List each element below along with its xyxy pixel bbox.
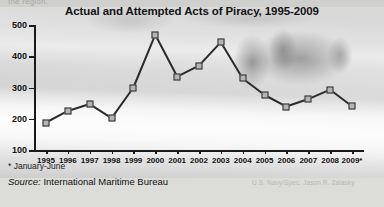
data-point-2007 bbox=[305, 96, 312, 103]
x-tick-label-2001: 2001 bbox=[168, 156, 186, 165]
data-point-2003 bbox=[217, 39, 224, 46]
x-tick-label-1999: 1999 bbox=[125, 156, 143, 165]
y-tick-label-200: 200 bbox=[12, 114, 27, 124]
data-point-2005 bbox=[261, 92, 268, 99]
chart-title: Actual and Attempted Acts of Piracy, 199… bbox=[0, 5, 384, 17]
x-tick-label-2000: 2000 bbox=[146, 156, 164, 165]
photo-credit: U.S. Navy/Spec. Jason R. Zalasky bbox=[252, 179, 355, 186]
source-label: Source: bbox=[8, 176, 41, 187]
data-point-2002 bbox=[196, 62, 203, 69]
x-tick-label-2002: 2002 bbox=[190, 156, 208, 165]
x-tick-label-1997: 1997 bbox=[81, 156, 99, 165]
data-point-1999 bbox=[130, 84, 137, 91]
data-point-1998 bbox=[108, 115, 115, 122]
x-tick-label-2007: 2007 bbox=[299, 156, 317, 165]
data-point-1995 bbox=[43, 119, 50, 126]
footnote-january-june: * January-June bbox=[8, 161, 65, 171]
x-tick-label-2006: 2006 bbox=[278, 156, 296, 165]
data-point-2009 bbox=[349, 103, 356, 110]
x-tick-label-1998: 1998 bbox=[103, 156, 121, 165]
data-point-1996 bbox=[64, 107, 71, 114]
x-tick-label-2003: 2003 bbox=[212, 156, 230, 165]
data-point-2004 bbox=[239, 75, 246, 82]
source-value: International Maritime Bureau bbox=[43, 176, 168, 187]
y-tick-label-500: 500 bbox=[12, 20, 27, 30]
source-line: Source: International Maritime Bureau bbox=[8, 176, 168, 187]
data-point-1997 bbox=[86, 101, 93, 108]
piracy-chart-figure: the region. Actual and Attempted Acts of… bbox=[0, 0, 384, 207]
y-tick-label-100: 100 bbox=[12, 145, 27, 155]
data-point-2000 bbox=[152, 31, 159, 38]
data-point-2006 bbox=[283, 103, 290, 110]
x-tick-label-2009: 2009* bbox=[342, 156, 363, 165]
x-tick-label-2005: 2005 bbox=[256, 156, 274, 165]
y-tick-label-400: 400 bbox=[12, 51, 27, 61]
x-tick-label-2004: 2004 bbox=[234, 156, 252, 165]
data-point-2001 bbox=[174, 73, 181, 80]
data-point-2008 bbox=[327, 86, 334, 93]
x-tick-label-2008: 2008 bbox=[321, 156, 339, 165]
plot-area: 100200300400500 199519961997199819992000… bbox=[34, 25, 364, 150]
y-tick-label-300: 300 bbox=[12, 83, 27, 93]
piracy-line-series bbox=[34, 25, 364, 151]
